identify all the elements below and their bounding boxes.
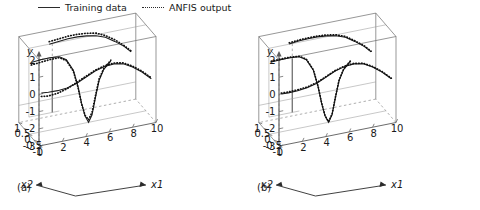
panel-b-x1-tick-label-2: 4 [324, 137, 330, 148]
panel-b-y-axis-arrowhead [276, 51, 281, 56]
panel-a-curve-training-data-0 [41, 64, 151, 93]
legend-label-anfis-output: ANFIS output [169, 2, 231, 13]
panel-a-ceiling-mid-gridline [29, 25, 146, 49]
figure-legend: Training data ANFIS output [0, 0, 480, 18]
panel-a-x1-tick-label-5: 10 [151, 123, 164, 134]
legend-item-anfis-output: ANFIS output [142, 2, 231, 13]
panel-a-curve-anfis-output-1 [31, 58, 111, 120]
legend-label-training-data: Training data [65, 2, 127, 13]
panel-a-y-axis-arrowhead [36, 51, 41, 56]
panel-b-x1-pointer-arrowhead [379, 182, 386, 187]
panel-b-floor-front-edge [279, 123, 396, 147]
panel-b-x1-pointer-line [316, 185, 387, 196]
panel-b-caption: (b) [257, 182, 271, 193]
panel-a-x1-tick-label-2: 4 [84, 137, 90, 148]
panel-a-x1-tick-label-1: 2 [60, 142, 66, 153]
panel-a-x1-axis-name: x1 [150, 179, 163, 190]
panel-b-ceiling-mid-gridline [269, 25, 386, 49]
panel-a-y-tick-label-2: 0 [29, 89, 35, 100]
panel-b-x1-tick-label-5: 10 [391, 123, 404, 134]
panel-b-floor-back-edge [259, 99, 376, 123]
panel-a-floor-mid-gridline [29, 111, 146, 135]
dotted-line-icon [142, 4, 164, 12]
panel-b-floor-mid-gridline [269, 111, 386, 135]
panel-b-curve-anfis-output-0 [281, 63, 391, 93]
panel-a-x2-pointer-line [36, 185, 76, 196]
legend-item-training-data: Training data [38, 2, 127, 13]
panel-a-x1-pointer-arrowhead [139, 182, 146, 187]
panel-b-x1-tick-label-3: 6 [347, 132, 353, 143]
solid-line-icon [38, 4, 60, 12]
plot-canvas: y210-1-2-3024681010.50-0.5-1x2x1(a)y210-… [0, 0, 480, 210]
panel-b-y-tick-label-3: -1 [266, 106, 276, 117]
panel-b-x1-tick-label-4: 8 [370, 128, 376, 139]
panel-a-caption: (a) [17, 182, 31, 193]
panel-a-y-tick-label-1: 1 [29, 72, 35, 83]
panel-b-x1-tick-label-1: 2 [300, 142, 306, 153]
anfis-surface-figure: Training data ANFIS output y210-1-2-3024… [0, 0, 480, 210]
panel-b-x2-tick-label-4: -1 [273, 146, 283, 157]
panel-a-floor-front-edge [39, 123, 156, 147]
panel-b-y-tick-label-2: 0 [269, 89, 275, 100]
panel-b-x1-axis-name: x1 [390, 179, 403, 190]
panel-a-floor-back-edge [19, 99, 136, 123]
panel-b-curve-anfis-output-2 [289, 35, 371, 51]
panel-a-x1-tick-label-4: 8 [130, 128, 136, 139]
panel-b-y-tick-label-1: 1 [269, 72, 275, 83]
panel-a-x2-tick-label-4: -1 [33, 146, 43, 157]
panel-b-x2-pointer-line [276, 185, 316, 196]
panel-a-x1-tick-label-3: 6 [107, 132, 113, 143]
panel-a-y-tick-label-3: -1 [26, 106, 36, 117]
panel-a-x1-pointer-line [76, 185, 147, 196]
